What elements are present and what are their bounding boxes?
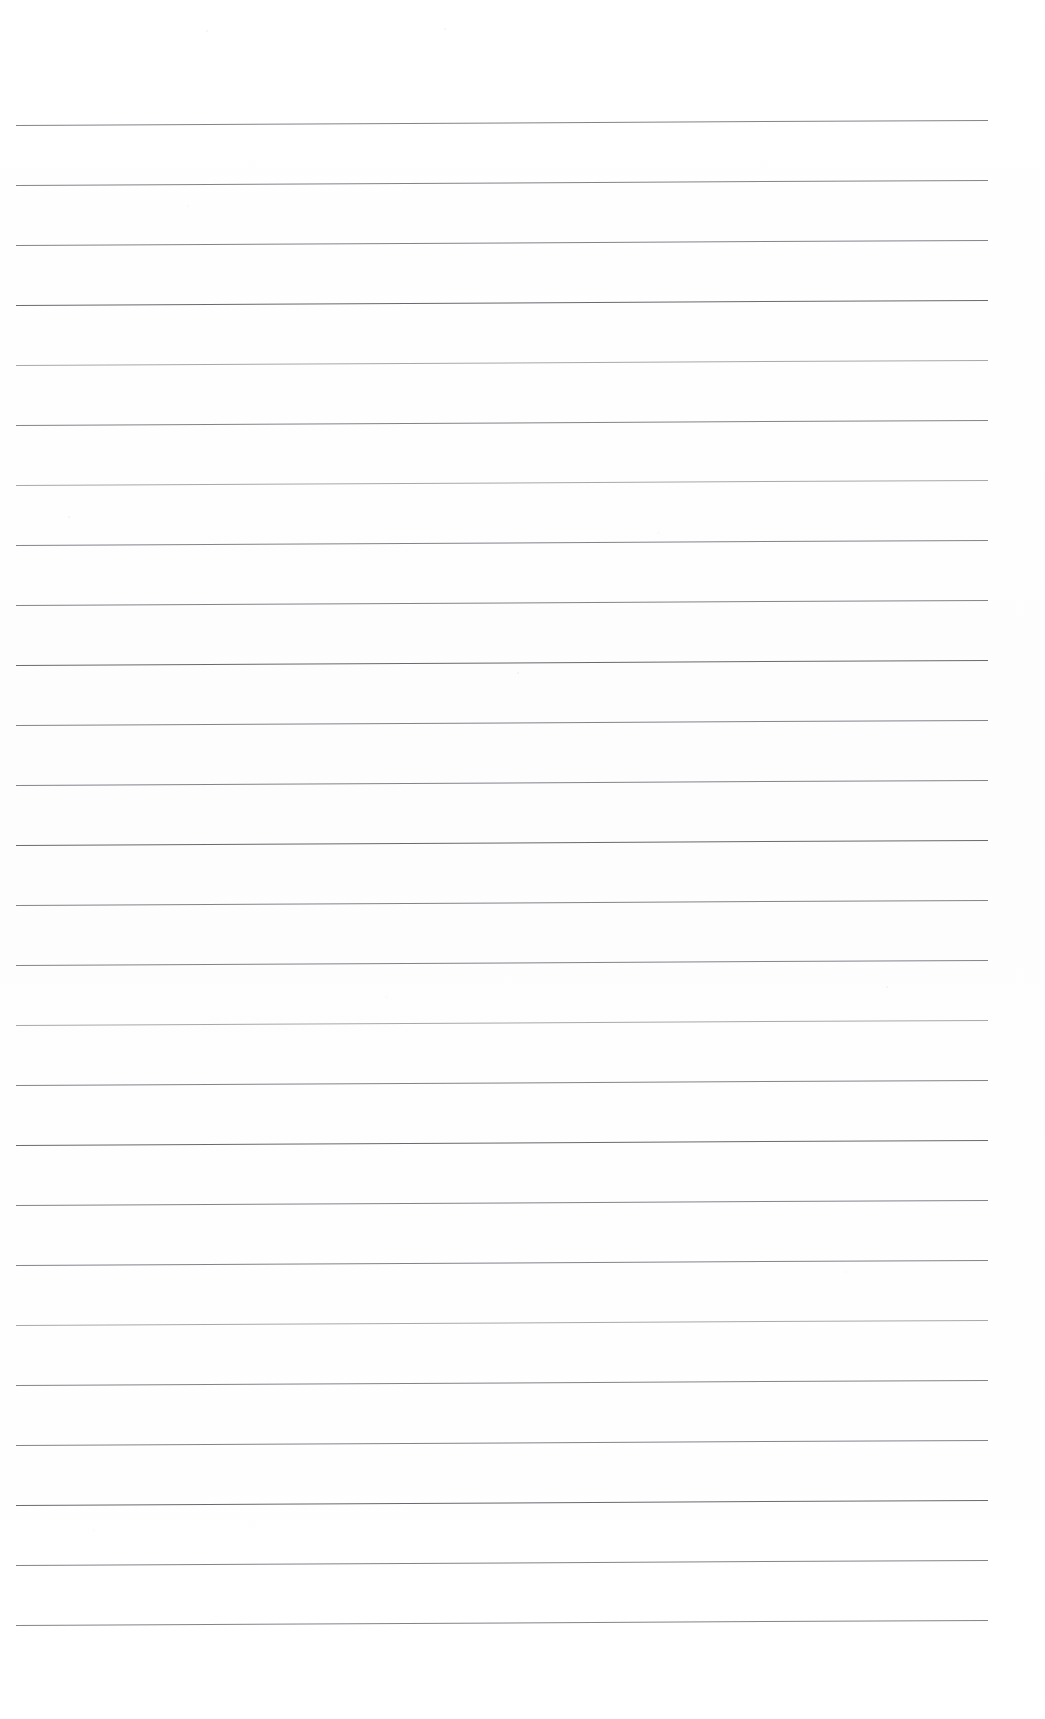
ruled-line [16,1080,988,1086]
ruled-line [16,1500,988,1506]
ruled-line [16,180,988,186]
ruled-line [16,360,988,366]
ruled-line [16,1020,988,1026]
ruled-line [16,960,988,966]
ruled-line [16,900,988,906]
ruled-line [16,1200,988,1206]
ruled-line [16,660,988,666]
ruled-line [16,420,988,426]
ruled-line [16,840,988,846]
ruled-line [16,600,988,606]
ruled-line [16,300,988,306]
ruled-line [16,1440,988,1446]
scanned-page [0,0,1045,1719]
ruled-lines-group [0,0,1045,1719]
ruled-line [16,1260,988,1266]
ruled-line [16,720,988,726]
ruled-line [16,240,988,246]
ruled-line [16,1620,988,1626]
ruled-line [16,540,988,546]
ruled-line [16,1380,988,1386]
ruled-line [16,120,988,126]
ruled-line [16,480,988,486]
ruled-line [16,1560,988,1566]
ruled-line [16,1140,988,1146]
ruled-line [16,780,988,786]
ruled-line [16,1320,988,1326]
